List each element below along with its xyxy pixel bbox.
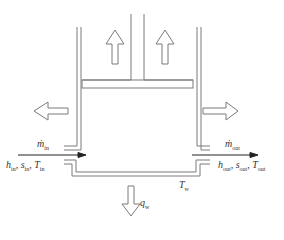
inlet-properties-label: hin, sin, Tin [6, 160, 44, 172]
outlet-arrowhead-icon [250, 153, 258, 158]
piston-head [82, 80, 193, 88]
cylinder-right-wall-inner [197, 27, 210, 146]
inlet-mass-flow-label: ṁin [37, 139, 49, 151]
cylinder-left-wall-inner [64, 27, 77, 146]
heat-loss-down-arrow-icon [122, 186, 140, 216]
piston-up-arrow-right-icon [156, 30, 174, 64]
cylinder-bottom-outer [64, 164, 210, 176]
cylinder-right-wall-outer [201, 27, 210, 150]
outlet-properties-label: hout, sout, Tout [218, 160, 265, 172]
wall-temperature-label: Tw [179, 180, 189, 192]
expansion-right-arrow-icon [203, 102, 238, 120]
heat-loss-label: qw [140, 198, 149, 210]
cylinder-left-wall-outer [64, 27, 81, 150]
piston-up-arrow-left-icon [106, 30, 124, 64]
inlet-arrowhead-icon [78, 153, 86, 158]
outlet-mass-flow-label: ṁout [225, 139, 240, 151]
expansion-left-arrow-icon [34, 102, 68, 120]
cylinder-bottom-inner [64, 160, 210, 172]
